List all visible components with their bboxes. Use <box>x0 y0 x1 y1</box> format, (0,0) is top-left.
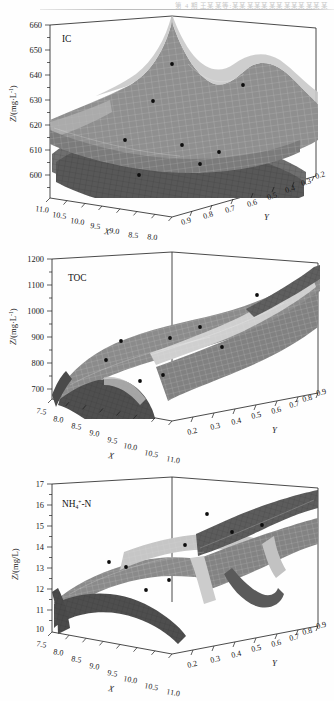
y-tick-label: 0.4 <box>230 649 242 660</box>
x-tick-label: 10.0 <box>123 674 138 685</box>
z-tick-label: 10 <box>36 625 44 634</box>
y-tick-label: 0.6 <box>270 638 282 649</box>
z-tick-label: 1200 <box>27 255 44 264</box>
y-tick-label: 0.6 <box>270 405 282 416</box>
series-label-ic: IC <box>62 34 71 44</box>
y-tick-label: 0.4 <box>230 416 242 427</box>
y-axis-nh4: 0.2 0.3 0.4 0.5 0.6 0.7 0.8 0.9 Y <box>186 620 327 670</box>
x-tick-label: 8.5 <box>128 230 139 240</box>
y-tick-label: 0.3 <box>209 654 221 665</box>
y-tick-label: 0.5 <box>250 410 262 421</box>
surface-mesh-nh4 <box>52 490 318 644</box>
z-tick-label: 610 <box>29 146 42 155</box>
x-tick-label: 8.5 <box>71 654 82 665</box>
x-tick-label: 8.5 <box>71 421 82 432</box>
z-tick-label: 660 <box>29 21 42 30</box>
z-tick-label: 16 <box>36 501 44 510</box>
z-ticks-toc <box>47 259 52 389</box>
surface-mesh-ic <box>50 14 318 212</box>
z-axis-nh4: 17 16 15 14 13 12 11 10 Z/(mg/L) <box>10 480 52 634</box>
z-tick-label: 640 <box>29 71 42 80</box>
z-tick-label: 620 <box>29 121 42 130</box>
z-tick-label: 600 <box>29 171 42 180</box>
y-axis-title-ic: Y <box>264 212 270 222</box>
y-axis-title-nh4: Y <box>272 658 278 668</box>
z-axis-toc: 1200 1100 1000 900 800 700 Z/(mg·L-1) <box>8 255 52 394</box>
z-tick-label: 12 <box>36 585 44 594</box>
series-label-toc: TOC <box>68 273 87 283</box>
x-tick-label: 10.0 <box>70 216 85 227</box>
x-tick-label: 9.5 <box>90 221 101 231</box>
y-tick-label: 0.3 <box>209 421 221 432</box>
z-tick-label: 800 <box>31 359 44 368</box>
y-tick-label: 0.8 <box>301 626 313 637</box>
surface-plot-toc: TOC 1200 1100 1000 90 <box>0 245 334 467</box>
y-tick-label: 0.2 <box>314 169 326 181</box>
x-axis-title-nh4: X <box>107 683 116 694</box>
x-axis-title-toc: X <box>107 450 116 461</box>
x-tick-label: 9.0 <box>89 661 100 672</box>
surface-plot-ic: IC 66 <box>0 12 334 240</box>
y-tick-label: 0.7 <box>288 632 300 643</box>
y-axis-toc: 0.2 0.3 0.4 0.5 0.6 0.7 0.8 0.9 Y <box>186 387 327 437</box>
x-tick-label: 10.5 <box>52 210 67 221</box>
x-tick-label: 11.0 <box>166 687 181 698</box>
page-header-rule <box>40 9 334 10</box>
y-tick-label: 0.2 <box>186 659 198 670</box>
x-tick-label: 8.0 <box>53 647 64 658</box>
figure-page: 第 4 期 王某某等:某某某某某某某某某某某某某 <box>0 0 334 701</box>
z-axis-ic: 660 650 640 630 620 610 600 Z/(mg·L-1) <box>8 21 50 188</box>
x-tick-label: 9.5 <box>107 435 118 446</box>
z-tick-label: 14 <box>36 543 45 552</box>
x-tick-label: 10.5 <box>144 448 159 459</box>
x-axis-ic: 11.0 10.5 10.0 9.5 9.0 8.5 8.0 X <box>35 198 172 240</box>
y-axis-title-toc: Y <box>272 425 278 435</box>
z-tick-label: 630 <box>29 96 42 105</box>
z-tick-label: 13 <box>36 564 44 573</box>
z-tick-label: 1100 <box>28 281 44 290</box>
x-tick-label: 11.0 <box>166 454 181 465</box>
z-tick-label: 650 <box>29 46 42 55</box>
z-tick-label: 15 <box>36 522 44 531</box>
x-tick-label: 10.5 <box>144 681 159 692</box>
x-tick-label: 9.0 <box>89 428 100 439</box>
surface-plot-nh4: NH4+-N 17 <box>0 472 334 701</box>
y-tick-label: 0.5 <box>250 643 262 654</box>
z-axis-title-nh4: Z/(mg/L) <box>10 548 20 580</box>
chart-panel-toc: TOC 1200 1100 1000 90 <box>0 245 334 467</box>
z-axis-title-ic: Z/(mg·L-1) <box>8 85 18 122</box>
y-tick-label: 0.7 <box>288 399 300 410</box>
z-tick-label: 11 <box>36 606 44 615</box>
x-tick-label: 8.0 <box>147 232 158 240</box>
y-tick-label: 0.2 <box>186 426 198 437</box>
y-tick-label: 0.9 <box>180 215 192 227</box>
x-tick-label: 7.5 <box>36 639 47 650</box>
z-ticks-ic <box>45 25 50 188</box>
x-tick-label: 7.5 <box>36 406 47 417</box>
x-tick-label: 9.0 <box>109 226 120 236</box>
series-label-nh4: NH4+-N <box>62 499 92 510</box>
x-tick-label: 10.0 <box>123 441 138 452</box>
chart-panel-ic: IC 66 <box>0 12 334 240</box>
y-tick-label: 0.7 <box>224 203 236 215</box>
y-tick-label: 0.9 <box>315 620 327 631</box>
y-tick-label: 0.3 <box>300 176 312 188</box>
z-tick-label: 17 <box>36 480 44 489</box>
z-tick-label: 900 <box>31 333 44 342</box>
y-tick-label: 0.9 <box>315 387 327 398</box>
y-tick-label: 0.6 <box>246 197 258 209</box>
y-tick-label: 0.8 <box>202 209 214 221</box>
y-tick-label: 0.8 <box>301 393 313 404</box>
surface-mesh-toc <box>52 265 320 443</box>
chart-panel-nh4: NH4+-N 17 <box>0 472 334 701</box>
z-tick-label: 700 <box>31 385 44 394</box>
x-tick-label: 9.5 <box>107 668 118 679</box>
x-tick-label: 8.0 <box>53 414 64 425</box>
z-ticks-nh4 <box>47 484 52 621</box>
page-header: 第 4 期 王某某等:某某某某某某某某某某某某某 <box>0 0 334 12</box>
z-axis-title-toc: Z/(mg·L-1) <box>8 308 18 345</box>
x-tick-label: 11.0 <box>35 204 50 215</box>
z-tick-label: 1000 <box>27 307 44 316</box>
